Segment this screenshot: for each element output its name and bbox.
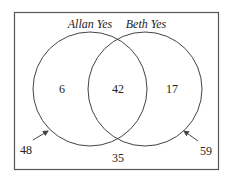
allan-outside-value: 48 <box>20 143 32 158</box>
beth-outside-value: 59 <box>200 144 212 159</box>
outside-value: 35 <box>112 151 124 166</box>
allan-label: Allan Yes <box>68 17 113 32</box>
arrow-59 <box>184 131 198 141</box>
arrow-48 <box>33 131 48 140</box>
beth-circle <box>88 32 202 146</box>
intersection-value: 42 <box>112 82 124 97</box>
beth-only-value: 17 <box>166 82 178 97</box>
allan-only-value: 6 <box>59 82 65 97</box>
beth-label: Beth Yes <box>126 17 167 32</box>
allan-circle <box>33 32 147 146</box>
